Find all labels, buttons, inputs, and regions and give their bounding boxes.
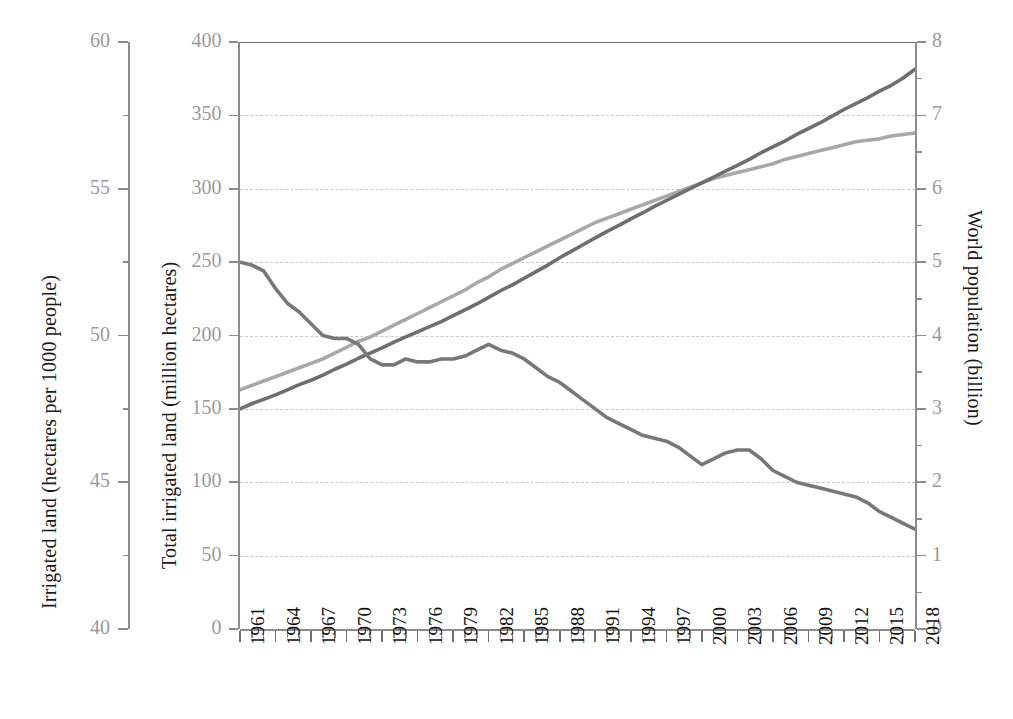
bottom-axis-tick: [630, 631, 632, 642]
bottom-axis-tick: [666, 631, 668, 642]
right-axis-minor-tick: [917, 445, 922, 446]
chart-figure: Irrigated land (hectares per 1000 people…: [0, 0, 1013, 719]
right-axis-minor-tick: [917, 78, 922, 79]
inner-left-axis-tick-label: 300: [169, 176, 221, 199]
inner-left-axis-tick-label: 350: [169, 102, 221, 125]
bottom-axis-tick: [523, 631, 525, 642]
bottom-axis-tick: [488, 631, 490, 642]
series-line: [240, 262, 915, 529]
inner-left-axis-tick: [229, 41, 238, 43]
outer-left-axis-tick: [118, 335, 128, 337]
right-axis-tick: [917, 481, 926, 483]
series-line: [240, 69, 915, 409]
bottom-axis-tick: [452, 631, 454, 642]
bottom-axis-tick: [346, 631, 348, 642]
bottom-axis-tick: [701, 631, 703, 642]
outer-left-axis-tick: [118, 628, 128, 630]
bottom-axis-tick: [559, 631, 561, 642]
right-axis-minor-tick: [917, 298, 922, 299]
outer-left-axis-minor-tick: [123, 408, 129, 409]
right-axis-tick: [917, 555, 926, 557]
outer-left-axis-spine: [128, 42, 130, 629]
right-axis-tick: [917, 408, 926, 410]
bottom-axis-tick: [737, 631, 739, 642]
inner-left-axis-tick-label: 400: [169, 29, 221, 52]
bottom-axis-tick: [239, 631, 241, 642]
inner-left-axis-tick: [229, 261, 238, 263]
right-axis-tick-label: 1: [932, 543, 972, 566]
outer-left-axis-tick-label: 55: [58, 176, 110, 199]
right-axis-tick-label: 3: [932, 396, 972, 419]
bottom-axis-tick: [772, 631, 774, 642]
inner-left-axis-tick: [229, 481, 238, 483]
inner-left-axis-tick-label: 150: [169, 396, 221, 419]
right-axis-tick: [917, 115, 926, 117]
right-axis-tick-label: 6: [932, 176, 972, 199]
inner-left-axis-tick-label: 100: [169, 469, 221, 492]
right-axis-minor-tick: [917, 151, 922, 152]
bottom-axis-tick: [381, 631, 383, 642]
bottom-axis-tick: [594, 631, 596, 642]
right-axis-tick-label: 2: [932, 469, 972, 492]
plot-area: [240, 42, 915, 629]
bottom-axis-tick: [417, 631, 419, 642]
right-axis-tick-label: 7: [932, 102, 972, 125]
right-axis-minor-tick: [917, 225, 922, 226]
series-lines: [240, 42, 915, 629]
right-axis-tick: [917, 41, 926, 43]
right-axis-minor-tick: [917, 518, 922, 519]
series-line: [240, 133, 915, 390]
outer-left-axis-minor-tick: [123, 261, 129, 262]
bottom-axis-tick: [275, 631, 277, 642]
inner-left-axis-tick-label: 250: [169, 249, 221, 272]
inner-left-axis-tick: [229, 335, 238, 337]
inner-left-axis-tick-label: 200: [169, 323, 221, 346]
bottom-axis-tick: [879, 631, 881, 642]
right-axis-minor-tick: [917, 371, 922, 372]
bottom-axis-tick-label: 2018: [922, 607, 944, 645]
bottom-axis-tick: [914, 631, 916, 642]
inner-left-axis-tick: [229, 555, 238, 557]
outer-left-axis-tick: [118, 41, 128, 43]
right-axis-tick: [917, 335, 926, 337]
right-axis-tick-label: 5: [932, 249, 972, 272]
outer-left-axis-tick-label: 45: [58, 469, 110, 492]
bottom-axis-tick: [310, 631, 312, 642]
inner-left-axis-tick-label: 0: [169, 616, 221, 639]
inner-left-axis-tick: [229, 628, 238, 630]
bottom-axis-tick: [843, 631, 845, 642]
inner-left-axis-tick: [229, 408, 238, 410]
inner-left-axis-tick: [229, 115, 238, 117]
inner-left-axis-tick-label: 50: [169, 543, 221, 566]
right-axis-tick: [917, 188, 926, 190]
inner-left-axis-tick: [229, 188, 238, 190]
right-axis-title: World population (billion): [963, 210, 986, 426]
outer-left-axis-tick: [118, 481, 128, 483]
outer-left-axis-tick-label: 60: [58, 29, 110, 52]
outer-left-axis-tick: [118, 188, 128, 190]
right-axis-tick: [917, 261, 926, 263]
outer-left-axis-minor-tick: [123, 115, 129, 116]
outer-left-axis-tick-label: 50: [58, 323, 110, 346]
right-axis-minor-tick: [917, 592, 922, 593]
right-axis-tick-label: 4: [932, 323, 972, 346]
right-axis-tick-label: 8: [932, 29, 972, 52]
bottom-axis-tick: [808, 631, 810, 642]
outer-left-axis-minor-tick: [123, 555, 129, 556]
outer-left-axis-tick-label: 40: [58, 616, 110, 639]
